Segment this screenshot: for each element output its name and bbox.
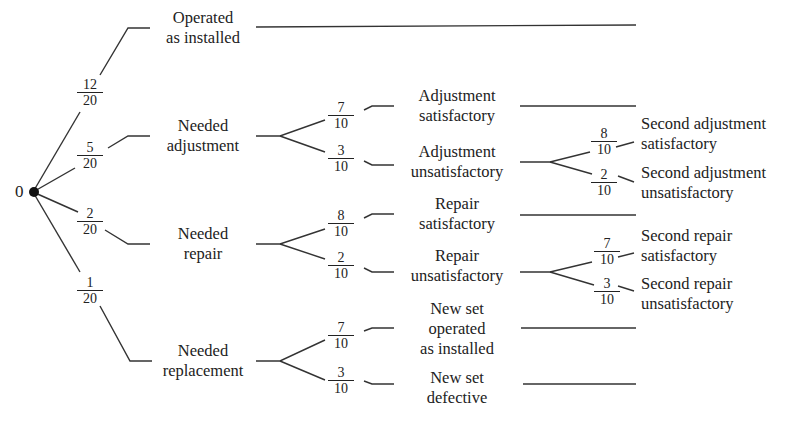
numerator: 7 <box>328 100 354 116</box>
label-line: Needed <box>150 116 256 136</box>
root-label: 0 <box>15 182 24 202</box>
numerator: 7 <box>328 320 354 336</box>
label-line: unsatisfactory <box>641 183 766 203</box>
label-line: New set <box>396 299 518 319</box>
label-line: satisfactory <box>641 246 732 266</box>
denominator: 10 <box>328 336 354 351</box>
root-node <box>29 187 39 197</box>
numerator: 3 <box>328 143 354 159</box>
denominator: 20 <box>77 156 103 171</box>
node-needed-adjustment: Needed adjustment <box>150 116 256 156</box>
prob-second-adjustment-satisfactory: 8 10 <box>591 126 617 157</box>
label-line: repair <box>150 244 256 264</box>
prob-second-repair-satisfactory: 7 10 <box>594 236 620 267</box>
node-needed-repair: Needed repair <box>150 224 256 264</box>
label-line: unsatisfactory <box>641 294 734 314</box>
denominator: 10 <box>591 142 617 157</box>
prob-adjustment-satisfactory: 7 10 <box>328 100 354 131</box>
denominator: 10 <box>328 224 354 239</box>
denominator: 20 <box>77 291 103 306</box>
denominator: 10 <box>328 116 354 131</box>
node-second-adjustment-unsatisfactory: Second adjustment unsatisfactory <box>641 163 766 203</box>
denominator: 10 <box>594 292 620 307</box>
label-line: satisfactory <box>641 134 766 154</box>
label-line: Repair <box>396 194 518 214</box>
node-needed-replacement: Needed replacement <box>150 341 256 381</box>
node-second-repair-unsatisfactory: Second repair unsatisfactory <box>641 274 734 314</box>
prob-new-set-operated: 7 10 <box>328 320 354 351</box>
label-line: New set <box>396 368 518 388</box>
label-line: Second repair <box>641 226 732 246</box>
node-adjustment-unsatisfactory: Adjustment unsatisfactory <box>396 142 518 182</box>
label-line: Needed <box>150 224 256 244</box>
label-line: Second repair <box>641 274 734 294</box>
numerator: 8 <box>591 126 617 142</box>
label-line: Adjustment <box>396 86 518 106</box>
numerator: 3 <box>594 276 620 292</box>
label-line: Needed <box>150 341 256 361</box>
prob-new-set-defective: 3 10 <box>328 365 354 396</box>
label-line: Second adjustment <box>641 114 766 134</box>
prob-adjustment-unsatisfactory: 3 10 <box>328 143 354 174</box>
node-second-repair-satisfactory: Second repair satisfactory <box>641 226 732 266</box>
node-repair-unsatisfactory: Repair unsatisfactory <box>396 246 518 286</box>
numerator: 2 <box>77 206 103 222</box>
numerator: 7 <box>594 236 620 252</box>
numerator: 1 <box>77 275 103 291</box>
label-line: unsatisfactory <box>396 162 518 182</box>
label-line: Adjustment <box>396 142 518 162</box>
prob-second-repair-unsatisfactory: 3 10 <box>594 276 620 307</box>
prob-second-adjustment-unsatisfactory: 2 10 <box>591 167 617 198</box>
numerator: 8 <box>328 208 354 224</box>
prob-adjustment: 5 20 <box>77 140 103 171</box>
numerator: 12 <box>77 77 103 93</box>
label-line: adjustment <box>150 136 256 156</box>
node-new-set-defective: New set defective <box>396 368 518 408</box>
label-line: Second adjustment <box>641 163 766 183</box>
node-second-adjustment-satisfactory: Second adjustment satisfactory <box>641 114 766 154</box>
label-line: operated <box>396 319 518 339</box>
prob-repair: 2 20 <box>77 206 103 237</box>
label-line: replacement <box>150 361 256 381</box>
prob-repair-satisfactory: 8 10 <box>328 208 354 239</box>
numerator: 5 <box>77 140 103 156</box>
prob-operated: 12 20 <box>77 77 103 108</box>
node-repair-satisfactory: Repair satisfactory <box>396 194 518 234</box>
label-line: satisfactory <box>396 214 518 234</box>
label-line: unsatisfactory <box>396 266 518 286</box>
numerator: 2 <box>328 250 354 266</box>
label-line: as installed <box>150 28 256 48</box>
label-line: Operated <box>150 8 256 28</box>
numerator: 2 <box>591 167 617 183</box>
label-line: Repair <box>396 246 518 266</box>
denominator: 10 <box>328 159 354 174</box>
numerator: 3 <box>328 365 354 381</box>
label-line: as installed <box>396 339 518 359</box>
denominator: 10 <box>328 266 354 281</box>
node-operated-as-installed: Operated as installed <box>150 8 256 48</box>
denominator: 20 <box>77 93 103 108</box>
prob-repair-unsatisfactory: 2 10 <box>328 250 354 281</box>
denominator: 20 <box>77 222 103 237</box>
prob-replacement: 1 20 <box>77 275 103 306</box>
label-line: defective <box>396 388 518 408</box>
label-line: satisfactory <box>396 106 518 126</box>
denominator: 10 <box>591 183 617 198</box>
node-adjustment-satisfactory: Adjustment satisfactory <box>396 86 518 126</box>
denominator: 10 <box>328 381 354 396</box>
node-new-set-operated: New set operated as installed <box>396 299 518 359</box>
denominator: 10 <box>594 252 620 267</box>
